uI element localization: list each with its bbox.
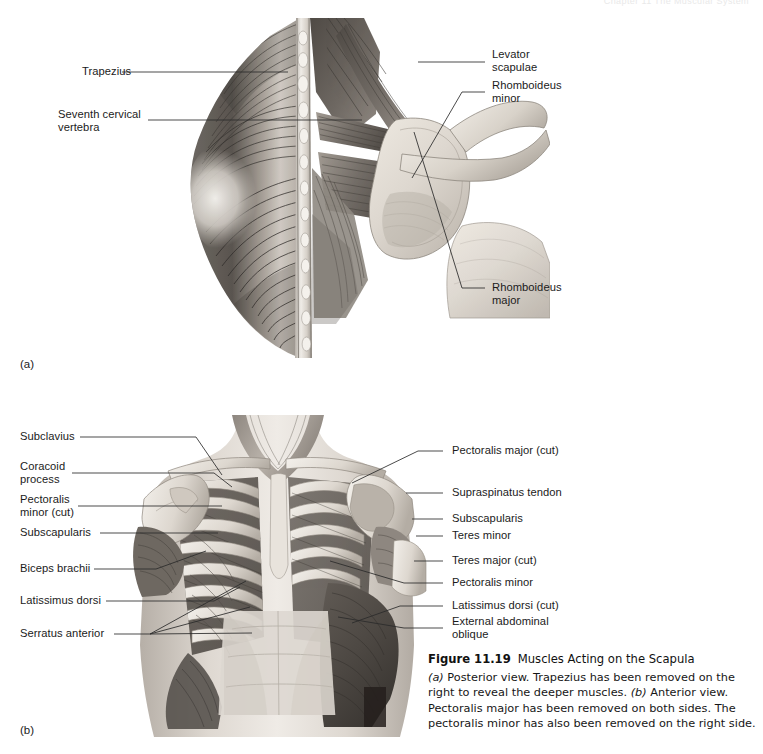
label-rhomboideus-minor: Rhomboideus minor bbox=[492, 79, 562, 104]
latissimus-dorsi-cut-window bbox=[364, 687, 386, 727]
label-supraspinatus-tendon: Supraspinatus tendon bbox=[452, 486, 562, 499]
figure-page: Chapter 11 The Muscular System bbox=[0, 0, 763, 754]
label-serratus-anterior: Serratus anterior bbox=[20, 627, 104, 640]
figure-number: Figure 11.19 bbox=[428, 652, 511, 666]
panel-a-tag: (a) bbox=[20, 358, 34, 370]
label-latissimus-dorsi-cut: Latissimus dorsi (cut) bbox=[452, 599, 559, 612]
label-teres-minor: Teres minor bbox=[452, 529, 511, 542]
humerus-right bbox=[392, 540, 426, 596]
label-teres-major-cut: Teres major (cut) bbox=[452, 554, 537, 567]
panel-a-posterior-view: Trapezius Seventh cervical vertebra Leva… bbox=[0, 0, 763, 390]
anterior-view-illustration bbox=[128, 415, 428, 740]
figure-caption: Figure 11.19Muscles Acting on the Scapul… bbox=[428, 652, 758, 732]
trapezius-left-mass bbox=[186, 18, 300, 358]
label-external-abdominal-oblique: External abdominal oblique bbox=[452, 615, 549, 640]
caption-heading: Figure 11.19Muscles Acting on the Scapul… bbox=[428, 652, 758, 667]
abdominal-wall bbox=[218, 611, 336, 725]
label-biceps-brachii: Biceps brachii bbox=[20, 562, 90, 575]
posterior-view-illustration bbox=[150, 18, 550, 378]
label-pectoralis-major-cut: Pectoralis major (cut) bbox=[452, 444, 559, 457]
label-pectoralis-minor-cut: Pectoralis minor (cut) bbox=[20, 493, 74, 518]
panel-b-tag: (b) bbox=[20, 724, 34, 736]
label-subclavius: Subclavius bbox=[20, 430, 75, 443]
label-latissimus-dorsi: Latissimus dorsi bbox=[20, 594, 101, 607]
label-pectoralis-minor: Pectoralis minor bbox=[452, 576, 533, 589]
label-coracoid-process: Coracoid process bbox=[20, 460, 65, 485]
label-subscapularis-left: Subscapularis bbox=[20, 526, 91, 539]
label-subscapularis-right: Subscapularis bbox=[452, 512, 523, 525]
sternum bbox=[270, 474, 288, 579]
label-trapezius: Trapezius bbox=[82, 65, 131, 78]
vertebral-column bbox=[295, 18, 312, 358]
caption-body: (a) Posterior view. Trapezius has been r… bbox=[428, 670, 758, 732]
label-levator-scapulae: Levator scapulae bbox=[492, 48, 537, 73]
label-seventh-cervical-vertebra: Seventh cervical vertebra bbox=[58, 108, 141, 133]
caption-part-b-tag: (b) bbox=[631, 686, 647, 699]
figure-title: Muscles Acting on the Scapula bbox=[518, 652, 695, 666]
caption-part-a-tag: (a) bbox=[428, 671, 444, 684]
label-rhomboideus-major: Rhomboideus major bbox=[492, 281, 562, 306]
